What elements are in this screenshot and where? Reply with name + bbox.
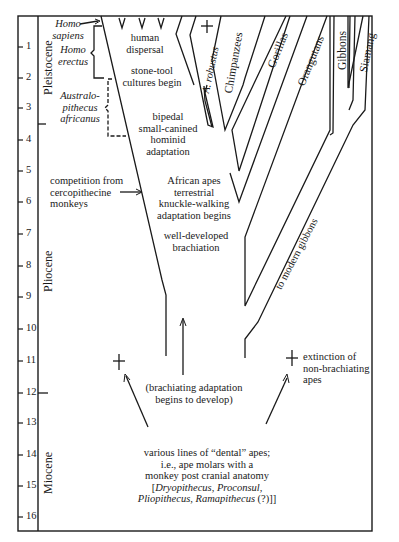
- note-well-developed-brachiation: well-developed brachiation: [160, 230, 232, 253]
- epoch-pleistocene: Pleistocene: [41, 40, 56, 95]
- tick-11: 11: [26, 354, 36, 365]
- tick-10: 10: [26, 322, 37, 333]
- tick-16: 16: [26, 510, 37, 521]
- tick-marks: [18, 47, 23, 517]
- tick-13: 13: [26, 416, 37, 427]
- tick-1: 1: [26, 40, 31, 51]
- tick-15: 15: [26, 479, 37, 490]
- tick-6: 6: [26, 195, 31, 206]
- extinction-cross-right: [286, 350, 298, 366]
- note-human-dispersal: human dispersal: [115, 32, 175, 55]
- epoch-pliocene: Pliocene: [41, 251, 56, 292]
- tick-12: 12: [26, 386, 37, 397]
- human-dispersal-v3: [158, 18, 164, 28]
- note-extinction-non-brachiating: extinction of non-brachiating apes: [303, 351, 373, 386]
- tick-3: 3: [26, 101, 31, 112]
- tick-5: 5: [26, 164, 31, 175]
- label-homo-erectus: Homo erectus: [55, 44, 91, 67]
- epoch-miocene: Miocene: [41, 452, 56, 494]
- human-dispersal-v2: [139, 18, 145, 28]
- note-dental-apes: various lines of “dental” apes; i.e., ap…: [128, 447, 286, 505]
- note-competition-cercopithecine: competition from cercopithecine monkeys: [50, 175, 130, 210]
- label-gibbons: Gibbons: [336, 31, 348, 70]
- tick-7: 7: [26, 227, 31, 238]
- tick-2: 2: [26, 71, 31, 82]
- tick-9: 9: [26, 290, 31, 301]
- extinction-cross-left: [113, 354, 125, 370]
- arrow-to-right-extinction: [266, 378, 287, 424]
- extinction-cross-robustus: [201, 20, 213, 33]
- tick-8: 8: [26, 259, 31, 270]
- label-australopithecus-africanus: Australo- pithecus africanus: [56, 90, 104, 125]
- human-dispersal-v1: [119, 18, 125, 28]
- note-bipedal-adaptation: bipedal small-canined hominid adaptation: [132, 111, 204, 157]
- note-brachiating-adaptation-begins: (brachiating adaptation begins to develo…: [145, 382, 243, 405]
- tick-4: 4: [26, 133, 31, 144]
- tick-14: 14: [26, 448, 37, 459]
- note-stone-tool-cultures: stone-tool cultures begin: [117, 65, 187, 88]
- homo-erectus-bracket: [91, 26, 104, 78]
- note-knuckle-walking: African apes terrestrial knuckle-walking…: [152, 175, 236, 221]
- label-homo-sapiens: Homo sapiens: [50, 18, 86, 41]
